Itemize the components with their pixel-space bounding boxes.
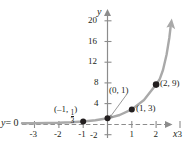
data-point-0 bbox=[105, 115, 111, 121]
x-tick-label-1: 1 bbox=[130, 130, 135, 139]
x-tick-label-2: 2 bbox=[154, 130, 159, 139]
point-label-neg1-prefix: (–1, bbox=[54, 104, 71, 114]
point-label-neg1-suffix: ) bbox=[74, 104, 77, 114]
point-label-neg1: (–1, 13) bbox=[54, 105, 77, 124]
data-point-1 bbox=[129, 106, 135, 112]
y-axis-label: y bbox=[97, 7, 101, 17]
asymptote-label: y= 0 bbox=[1, 118, 19, 128]
y-tick-label-4: 4 bbox=[94, 99, 99, 108]
x-tick-label-neg1: -1 bbox=[78, 130, 86, 139]
point-label-1: (1, 3) bbox=[136, 104, 156, 113]
point-label-0: (0, 1) bbox=[109, 86, 129, 95]
y-tick-label-neg2: -2 bbox=[90, 131, 98, 140]
point-label-2: (2, 9) bbox=[160, 79, 180, 88]
y-tick-label-12: 12 bbox=[88, 57, 97, 66]
x-tick-label-3: 3 bbox=[178, 130, 183, 139]
data-point-neg1 bbox=[80, 119, 86, 125]
fraction-denominator: 3 bbox=[71, 116, 75, 124]
data-point-2 bbox=[153, 81, 160, 88]
y-tick-label-8: 8 bbox=[94, 78, 99, 87]
x-axis-arrowhead bbox=[165, 121, 173, 128]
x-axis-label: x bbox=[173, 129, 177, 139]
asymptote-label-value: = 0 bbox=[5, 117, 18, 128]
y-tick-label-20: 20 bbox=[88, 16, 97, 25]
exponential-function-graph: 20 16 12 8 4 -2 -3 -2 -1 1 2 3 y x y= 0 … bbox=[0, 0, 187, 152]
x-tick-label-neg3: -3 bbox=[30, 130, 38, 139]
x-tick-label-neg2: -2 bbox=[54, 130, 62, 139]
y-tick-label-16: 16 bbox=[88, 37, 97, 46]
y-axis-arrowhead bbox=[104, 9, 111, 16]
